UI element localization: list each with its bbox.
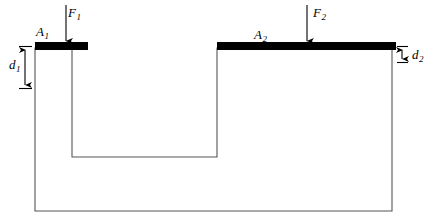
left-piston-bar: [35, 42, 88, 50]
hydraulic-press-diagram: A1 F1 A2 F2 d1 d2: [0, 0, 439, 224]
label-force-left-base: F: [68, 5, 76, 20]
label-depth-left: d1: [9, 58, 20, 71]
label-depth-left-sub: 1: [16, 64, 21, 74]
label-depth-right: d2: [412, 48, 423, 61]
vessel-outline: [35, 48, 392, 211]
label-force-left: F1: [68, 6, 80, 19]
label-area-left: A1: [36, 25, 48, 38]
right-piston-bar: [217, 42, 396, 50]
label-depth-left-base: d: [9, 57, 16, 72]
label-force-right-base: F: [313, 5, 321, 20]
label-depth-right-base: d: [412, 47, 419, 62]
label-force-left-sub: 1: [76, 12, 81, 22]
label-area-left-sub: 1: [44, 31, 49, 41]
label-force-right-sub: 2: [321, 12, 326, 22]
label-area-right-base: A: [254, 27, 262, 42]
diagram-canvas: [0, 0, 439, 224]
label-area-right: A2: [254, 28, 266, 41]
label-force-right: F2: [313, 6, 325, 19]
label-area-right-sub: 2: [262, 34, 267, 44]
label-area-left-base: A: [36, 24, 44, 39]
label-depth-right-sub: 2: [419, 54, 424, 64]
